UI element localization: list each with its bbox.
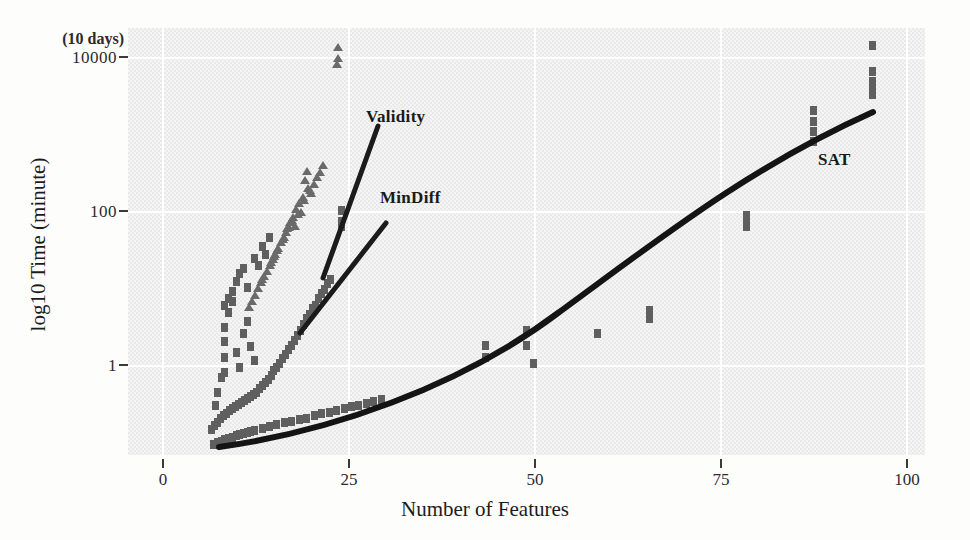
trendline-mindiff — [300, 223, 386, 333]
xtick-label-75: 75 — [681, 470, 761, 490]
trend-lines — [128, 28, 925, 455]
xtick-label-0: 0 — [123, 470, 203, 490]
xtick-mark-25 — [348, 459, 350, 468]
xtick-mark-75 — [720, 459, 722, 468]
series-label-mindiff: MinDiff — [380, 188, 441, 208]
plot-area: Validity MinDiff SAT — [128, 28, 925, 455]
trendline-validity — [323, 126, 378, 278]
xtick-label-50: 50 — [495, 470, 575, 490]
ten-days-annotation: (10 days) — [28, 30, 124, 48]
series-label-sat: SAT — [818, 150, 851, 170]
xtick-mark-100 — [906, 459, 908, 468]
ytick-mark-1 — [119, 364, 128, 366]
xtick-label-25: 25 — [309, 470, 389, 490]
xtick-label-100: 100 — [867, 470, 947, 490]
ytick-label-10000: 10000 — [20, 48, 117, 68]
series-label-validity: Validity — [366, 107, 425, 127]
y-axis-title: log10 Time (minute) — [26, 95, 51, 395]
trendline-sat — [219, 112, 873, 447]
ytick-mark-100 — [119, 210, 128, 212]
xtick-mark-50 — [534, 459, 536, 468]
ytick-mark-10000 — [119, 56, 128, 58]
x-axis-title: Number of Features — [0, 497, 970, 522]
figure-canvas: Validity MinDiff SAT (10 days) 10000 100… — [0, 0, 970, 540]
xtick-mark-0 — [162, 459, 164, 468]
